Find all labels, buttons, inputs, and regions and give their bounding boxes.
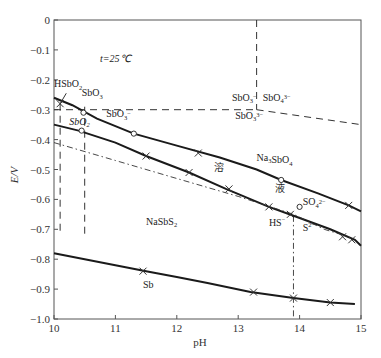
circle-marker bbox=[297, 204, 302, 209]
x-tick-label: 13 bbox=[233, 322, 245, 334]
region-label: 液 bbox=[275, 182, 285, 194]
pourbaix-chart: 1011121314150−0.1−0.2−0.3−0.4−0.5−0.6−0.… bbox=[0, 0, 381, 358]
y-tick-label: −0.3 bbox=[30, 104, 50, 116]
circle-marker bbox=[279, 177, 284, 182]
plot-frame bbox=[54, 20, 361, 319]
region-label: S2− bbox=[303, 221, 316, 233]
dashed-boundaries bbox=[54, 20, 361, 319]
region-label: NaSbS2 bbox=[146, 216, 177, 229]
x-tick-label: 10 bbox=[49, 322, 61, 334]
y-axis-title: E/V bbox=[8, 165, 20, 184]
region-label: 溶 bbox=[214, 161, 224, 173]
circle-marker bbox=[79, 128, 84, 133]
y-tick-label: −0.5 bbox=[30, 164, 50, 176]
region-label: SbO3− bbox=[232, 92, 257, 105]
region-label: SO42− bbox=[303, 196, 326, 209]
region-label: SbO3− bbox=[106, 108, 131, 121]
region-label: HS− bbox=[269, 216, 286, 228]
boundary-line bbox=[54, 253, 355, 304]
y-tick-label: −0.6 bbox=[30, 193, 50, 205]
x-tick-label: 12 bbox=[171, 322, 182, 334]
x-tick-label: 14 bbox=[294, 322, 306, 334]
region-label: Sb bbox=[143, 279, 154, 290]
circle-marker bbox=[81, 110, 86, 115]
dashed-boundary bbox=[257, 110, 361, 125]
y-tick-label: −0.9 bbox=[30, 283, 50, 295]
y-tick-label: −0.1 bbox=[30, 44, 50, 56]
y-tick-label: −1.0 bbox=[30, 313, 50, 325]
y-tick-label: −0.8 bbox=[30, 253, 50, 265]
x-axis-title: pH bbox=[193, 336, 207, 348]
region-label: t=25℃ bbox=[100, 53, 133, 64]
y-tick-label: −0.2 bbox=[30, 74, 50, 86]
region-label: SbO3 bbox=[82, 87, 103, 100]
y-tick-label: 0 bbox=[45, 14, 51, 26]
boundary-line bbox=[54, 98, 361, 212]
circle-marker bbox=[131, 131, 136, 136]
x-tick-label: 15 bbox=[356, 322, 368, 334]
region-label: SbO43− bbox=[263, 92, 291, 105]
axis-ticks: 1011121314150−0.1−0.2−0.3−0.4−0.5−0.6−0.… bbox=[30, 14, 367, 334]
y-tick-label: −0.4 bbox=[30, 134, 50, 146]
region-label: HSbO2 bbox=[54, 78, 82, 91]
region-label: SbO33− bbox=[235, 110, 263, 123]
y-tick-label: −0.7 bbox=[30, 223, 50, 235]
x-tick-label: 11 bbox=[110, 322, 121, 334]
region-label: SbO2 bbox=[69, 116, 90, 128]
region-label: Na3SbO4 bbox=[257, 152, 294, 167]
